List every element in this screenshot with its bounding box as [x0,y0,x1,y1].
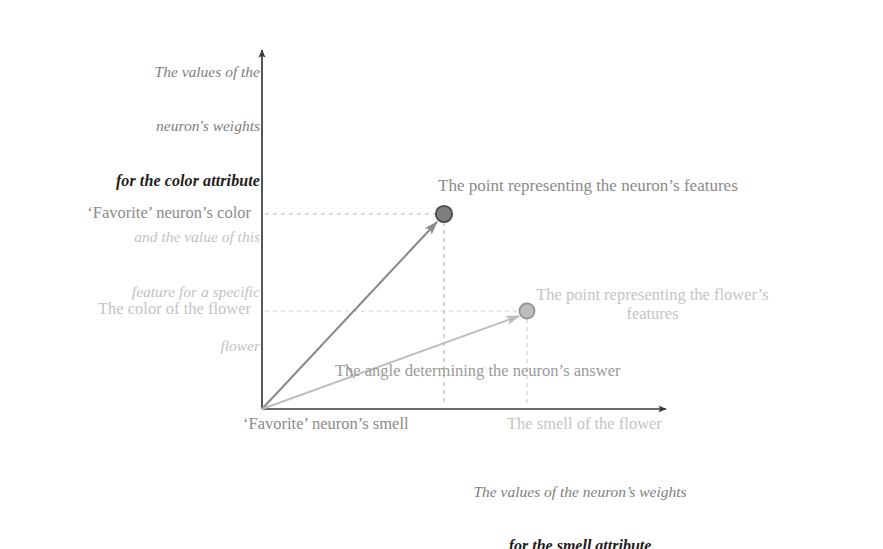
x-axis-caption-line-1: The values of the neuron’s weights [300,483,860,501]
y-tick-label-neuron-color: ‘Favorite’ neuron’s color [46,203,251,222]
neuron-point [436,206,452,222]
x-axis-caption-line-2: for the smell attribute [300,537,860,549]
angle-label: The angle determining the neuron’s answe… [335,361,620,380]
x-tick-label-neuron-smell: ‘Favorite’ neuron’s smell [243,414,409,433]
flower-point [519,303,534,318]
y-axis-caption-line-6: flower [28,337,260,355]
neuron-vector-arrow [262,222,437,409]
vector-diagram: The values of the neuron's weights for t… [0,0,883,549]
y-axis-caption-line-1: The values of the [28,63,260,81]
x-tick-label-flower-smell: The smell of the flower [507,414,662,433]
y-axis-caption-line-3: for the color attribute [28,172,260,191]
y-axis-caption-line-2: neuron's weights [28,117,260,135]
flower-point-label: The point representing the flower’s feat… [535,285,770,324]
neuron-point-label: The point representing the neuron’s feat… [438,176,738,196]
y-tick-label-flower-color: The color of the flower [36,299,251,318]
x-axis-caption: The values of the neuron’s weights for t… [300,446,860,549]
y-axis-caption-line-4: and the value of this [28,228,260,246]
